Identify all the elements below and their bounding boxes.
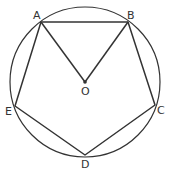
- pentagon-diagram: A B C D E O: [0, 0, 177, 172]
- label-a: A: [33, 9, 41, 22]
- label-d: D: [81, 158, 89, 171]
- segment-oa: [41, 22, 85, 82]
- label-e: E: [5, 105, 12, 118]
- center-point-o: [83, 80, 87, 84]
- label-b: B: [127, 9, 135, 22]
- label-o: O: [81, 85, 90, 98]
- segment-ob: [85, 22, 128, 82]
- label-c: C: [157, 104, 165, 117]
